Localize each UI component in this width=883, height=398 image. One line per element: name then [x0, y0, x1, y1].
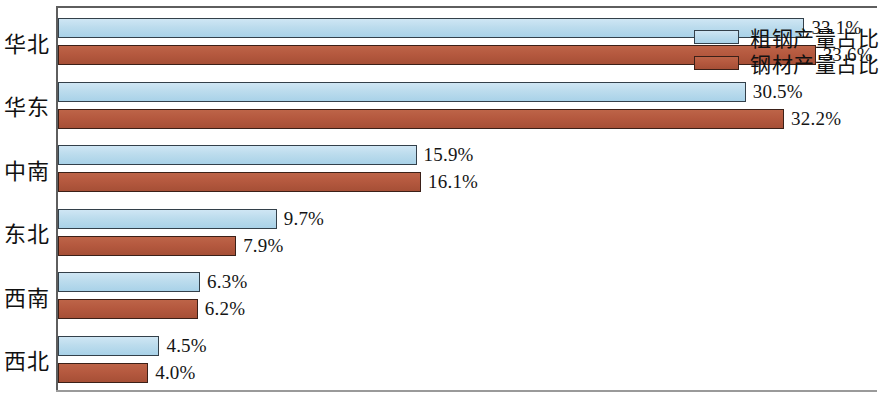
- bar-crude-steel: [58, 209, 277, 229]
- bar-steel-products: [58, 363, 148, 383]
- bar-value-label: 7.9%: [243, 234, 283, 256]
- bar-steel-products: [58, 236, 236, 256]
- bar-group: 15.9%16.1%: [58, 145, 877, 192]
- category-label-5: 华北: [0, 26, 54, 58]
- bar-steel-products: [58, 172, 421, 192]
- legend-item-0[interactable]: 粗钢产量占比: [694, 24, 879, 50]
- plot-frame-bottom-border: [56, 390, 877, 392]
- legend-item-1[interactable]: 钢材产量占比: [694, 50, 879, 76]
- bar-row: 30.5%: [58, 82, 877, 102]
- bar-group: 9.7%7.9%: [58, 209, 877, 256]
- category-label-4: 华东: [0, 89, 54, 121]
- bar-row: 15.9%: [58, 145, 877, 165]
- bar-crude-steel: [58, 145, 417, 165]
- legend-swatch-icon: [694, 30, 739, 44]
- bar-group: 4.5%4.0%: [58, 336, 877, 383]
- bar-value-label: 15.9%: [424, 144, 474, 166]
- bar-crude-steel: [58, 18, 804, 38]
- category-label-2: 东北: [0, 216, 54, 248]
- bar-value-label: 30.5%: [753, 80, 803, 102]
- bar-crude-steel: [58, 272, 200, 292]
- category-label-1: 西南: [0, 280, 54, 312]
- bar-row: 9.7%: [58, 209, 877, 229]
- legend-label: 钢材产量占比: [750, 48, 879, 78]
- bar-row: 6.2%: [58, 299, 877, 319]
- chart-legend: 粗钢产量占比钢材产量占比: [694, 24, 879, 76]
- bar-row: 4.0%: [58, 363, 877, 383]
- bar-row: 6.3%: [58, 272, 877, 292]
- bar-chart: 华北华东中南东北西南西北 33.1%33.6%30.5%32.2%15.9%16…: [0, 0, 883, 398]
- bar-row: 32.2%: [58, 109, 877, 129]
- category-label-0: 西北: [0, 343, 54, 375]
- category-label-3: 中南: [0, 153, 54, 185]
- bar-row: 16.1%: [58, 172, 877, 192]
- bar-row: 4.5%: [58, 336, 877, 356]
- legend-swatch-icon: [694, 56, 739, 70]
- bar-crude-steel: [58, 336, 159, 356]
- bar-steel-products: [58, 299, 198, 319]
- bar-value-label: 9.7%: [284, 207, 324, 229]
- bar-group: 6.3%6.2%: [58, 272, 877, 319]
- bar-value-label: 4.0%: [155, 361, 195, 383]
- bar-value-label: 6.3%: [207, 271, 247, 293]
- bar-steel-products: [58, 109, 784, 129]
- bar-group: 30.5%32.2%: [58, 82, 877, 129]
- bar-value-label: 6.2%: [205, 298, 245, 320]
- bar-row: 7.9%: [58, 236, 877, 256]
- bar-crude-steel: [58, 82, 746, 102]
- bar-value-label: 4.5%: [166, 334, 206, 356]
- bar-value-label: 32.2%: [791, 107, 841, 129]
- bar-value-label: 16.1%: [428, 171, 478, 193]
